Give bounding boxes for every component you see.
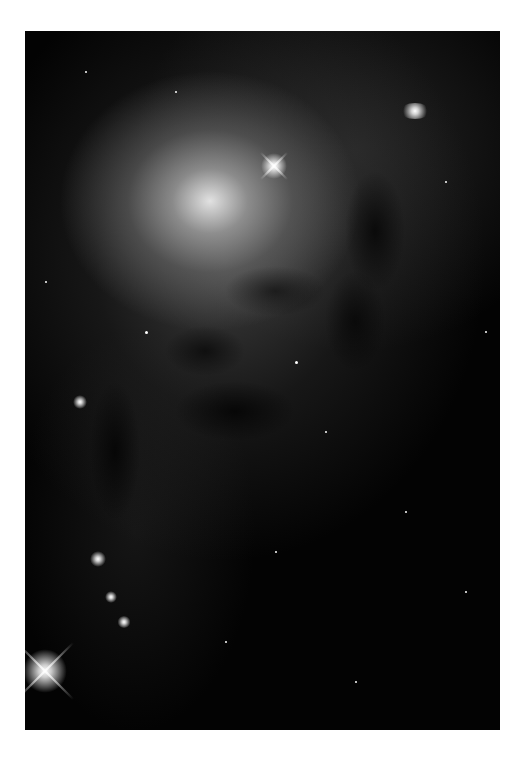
star (445, 181, 447, 183)
star (145, 331, 148, 334)
star (45, 281, 47, 283)
star (225, 641, 227, 643)
dust-lanes (25, 31, 500, 730)
star (465, 591, 467, 593)
star (355, 681, 357, 683)
star (85, 71, 87, 73)
star (175, 91, 177, 93)
star-cluster (400, 103, 430, 119)
star-cluster (90, 551, 106, 567)
star-cluster (105, 591, 117, 603)
star (275, 551, 277, 553)
star (295, 361, 298, 364)
star (325, 431, 327, 433)
star (485, 331, 487, 333)
galaxy-photograph (25, 31, 500, 730)
star (73, 395, 87, 409)
star (405, 511, 407, 513)
star-cluster (117, 616, 131, 628)
